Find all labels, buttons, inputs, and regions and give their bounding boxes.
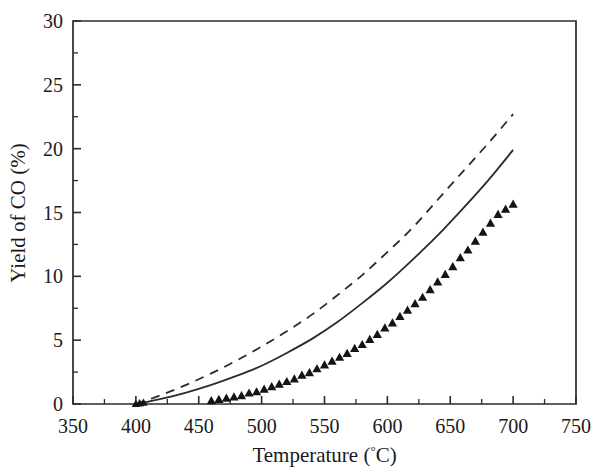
data-marker-triangle (448, 262, 457, 270)
data-marker-triangle (493, 210, 502, 218)
x-tick-label: 400 (121, 416, 151, 436)
y-axis-label-text: Yield of CO (%) (6, 143, 31, 282)
data-marker-triangle (214, 395, 223, 403)
data-marker-triangle (252, 387, 261, 395)
x-tick-label: 750 (561, 416, 591, 436)
x-tick-label: 600 (372, 416, 402, 436)
data-marker-triangle (433, 277, 442, 285)
y-tick-label: 15 (43, 203, 63, 223)
x-tick-label: 650 (435, 416, 465, 436)
data-marker-triangle (373, 330, 382, 338)
data-marker-triangle (403, 305, 412, 313)
data-marker-triangle (486, 219, 495, 227)
y-tick-label: 0 (53, 394, 63, 414)
x-tick-label: 500 (247, 416, 277, 436)
data-marker-triangle (471, 236, 480, 244)
data-marker-triangle (229, 392, 238, 400)
degree-symbol: ° (370, 443, 375, 458)
data-marker-triangle (456, 253, 465, 261)
data-series (132, 114, 518, 407)
data-marker-triangle (478, 228, 487, 236)
data-marker-triangle (441, 270, 450, 278)
data-marker-triangle (237, 391, 246, 399)
y-axis-label: Yield of CO (%) (2, 21, 34, 404)
data-marker-triangle (275, 379, 284, 387)
y-tick-label: 5 (53, 330, 63, 350)
y-tick-label: 25 (43, 75, 63, 95)
data-marker-triangle (380, 323, 389, 331)
data-marker-triangle (282, 377, 291, 385)
y-tick-label: 30 (43, 11, 63, 31)
x-tick-label: 350 (58, 416, 88, 436)
data-marker-triangle (388, 318, 397, 326)
axes (73, 21, 576, 404)
plot-frame (73, 21, 576, 404)
y-tick-label: 20 (43, 139, 63, 159)
y-tick-label: 10 (43, 266, 63, 286)
data-marker-triangle (501, 205, 510, 213)
data-marker-triangle (365, 335, 374, 343)
data-marker-triangle (244, 388, 253, 396)
x-tick-label: 700 (498, 416, 528, 436)
data-marker-triangle (207, 396, 216, 404)
x-axis-label: Temperature (°C) (252, 444, 396, 466)
data-marker-triangle (222, 394, 231, 402)
data-marker-triangle (297, 371, 306, 379)
data-marker-triangle (418, 293, 427, 301)
x-axis-label-text: Temperature (°C) (252, 443, 396, 467)
data-marker-triangle (426, 285, 435, 293)
data-marker-triangle (395, 312, 404, 320)
series-lower-triangle-series (207, 199, 518, 404)
x-tick-label: 450 (184, 416, 214, 436)
data-marker-triangle (358, 340, 367, 348)
data-marker-triangle (267, 382, 276, 390)
data-marker-triangle (463, 245, 472, 253)
data-marker-triangle (260, 385, 269, 393)
x-tick-label: 550 (310, 416, 340, 436)
data-marker-triangle (509, 199, 518, 207)
origin-marker-cluster (132, 398, 148, 407)
data-marker-triangle (410, 299, 419, 307)
data-marker-triangle (343, 349, 352, 357)
